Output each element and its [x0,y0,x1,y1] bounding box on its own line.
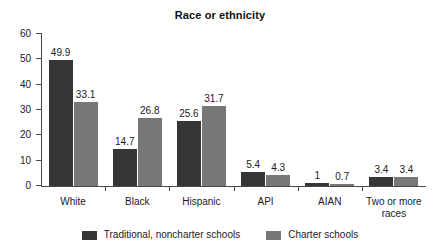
y-tick-40: 40 [0,79,41,91]
bar-value-label: 0.7 [322,171,362,182]
y-tick-mark [36,58,41,59]
chart-title: Race or ethnicity [0,9,440,21]
y-tick-label: 60 [20,28,31,40]
x-axis-separator-tick [105,186,106,191]
y-tick-mark [36,134,41,135]
y-tick-label: 0 [25,180,31,192]
bar-charter-5[interactable] [394,177,418,186]
bar-traditional-2[interactable] [177,121,201,186]
bar-traditional-0[interactable] [49,60,73,186]
y-tick-10: 10 [0,155,41,167]
x-axis-separator-tick [169,186,170,191]
legend-item-charter[interactable]: Charter schools [266,229,358,241]
bar-traditional-3[interactable] [241,172,265,186]
y-tick-mark [36,33,41,34]
y-tick-label: 40 [20,79,31,91]
bar-value-label: 14.7 [105,136,145,147]
bar-traditional-1[interactable] [113,149,137,186]
bar-value-label: 26.8 [130,105,170,116]
bar-charter-1[interactable] [138,118,162,186]
y-tick-label: 30 [20,104,31,116]
y-tick-mark [36,160,41,161]
bar-traditional-4[interactable] [305,183,329,186]
y-tick-mark [36,185,41,186]
y-tick-0: 0 [0,180,41,192]
y-tick-label: 10 [20,155,31,167]
y-tick-label: 20 [20,129,31,141]
y-tick-20: 20 [0,129,41,141]
x-axis-separator-tick [234,186,235,191]
bar-value-label: 25.6 [169,108,209,119]
bar-charter-4[interactable] [330,184,354,186]
bar-value-label: 31.7 [194,93,234,104]
legend-label-traditional: Traditional, noncharter schools [104,229,240,241]
x-axis-separator-tick [298,186,299,191]
bar-value-label: 49.9 [41,47,81,58]
legend-swatch-charter-icon [266,231,281,240]
bar-traditional-5[interactable] [369,177,393,186]
legend-label-charter: Charter schools [288,229,358,241]
bar-charter-0[interactable] [74,102,98,186]
x-axis-category-label: Two or more races [356,196,432,220]
bar-value-label: 33.1 [66,89,106,100]
y-tick-50: 50 [0,53,41,65]
legend-swatch-traditional-icon [82,231,97,240]
chart-legend: Traditional, noncharter schools Charter … [0,229,440,241]
bar-value-label: 3.4 [386,164,426,175]
y-tick-30: 30 [0,104,41,116]
y-tick-label: 50 [20,53,31,65]
bar-charter-3[interactable] [266,175,290,186]
bar-value-label: 4.3 [258,162,298,173]
y-tick-60: 60 [0,28,41,40]
legend-item-traditional[interactable]: Traditional, noncharter schools [82,229,240,241]
chart-container: Race or ethnicity 0102030405060 49.933.1… [0,0,440,252]
x-axis-separator-tick [362,186,363,191]
y-tick-mark [36,84,41,85]
y-tick-mark [36,109,41,110]
